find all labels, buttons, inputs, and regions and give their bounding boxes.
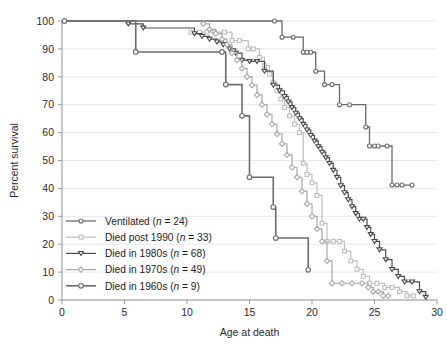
data-point-triangle-down	[192, 32, 197, 36]
y-tick-label: 80	[42, 71, 54, 83]
data-point-triangle-down	[350, 205, 355, 209]
data-point-triangle-down	[327, 161, 332, 165]
data-point-triangle-down	[207, 37, 212, 41]
y-axis-title-text: Percent survival	[8, 123, 20, 198]
legend-label-text: Died in 1960s (n = 9)	[105, 281, 200, 292]
data-point-circle	[271, 205, 276, 210]
data-point-square	[268, 72, 272, 76]
data-point-circle	[348, 103, 352, 107]
data-point-diamond	[289, 165, 294, 170]
data-point-triangle-down	[247, 60, 252, 64]
data-point-diamond	[314, 226, 319, 231]
data-point-triangle-down	[331, 168, 336, 172]
chart-svg: 0102030405060708090100 051015202530 Perc…	[0, 0, 447, 353]
data-point-circle	[385, 144, 389, 148]
data-point-diamond	[254, 92, 259, 97]
data-point-square	[305, 173, 309, 177]
y-tick-label: 0	[48, 294, 54, 306]
data-point-triangle-down	[215, 40, 220, 44]
data-point-triangle-down	[323, 156, 328, 160]
legend-label-text: Died in 1970s (n = 49)	[105, 264, 206, 275]
data-point-circle	[62, 19, 67, 24]
data-point-circle	[400, 183, 404, 187]
data-point-triangle-down	[410, 280, 415, 284]
legend-label-text: Ventilated (n = 24)	[105, 216, 188, 227]
legend-label-text: Died in 1980s (n = 68)	[105, 248, 206, 259]
legend-entry-died-in-1970s[interactable]: Died in 1970s (n = 49)	[66, 264, 206, 275]
data-point-circle	[410, 183, 414, 187]
data-point-circle	[306, 268, 311, 273]
y-axis-title: Percent survival	[8, 123, 20, 198]
data-point-triangle-down	[271, 83, 276, 87]
data-point-triangle-down	[372, 240, 377, 244]
data-point-triangle-down	[353, 212, 358, 216]
data-point-square	[298, 131, 302, 135]
data-point-triangle-down	[383, 258, 388, 262]
data-point-diamond	[234, 57, 239, 62]
legend-entry-ventilated[interactable]: Ventilated (n = 24)	[66, 216, 188, 227]
data-point-triangle-down	[316, 145, 321, 149]
data-point-diamond	[309, 214, 314, 219]
data-point-circle	[247, 175, 252, 180]
data-point-square	[355, 267, 359, 271]
legend-entry-died-in-1960s[interactable]: Died in 1960s (n = 9)	[66, 281, 200, 292]
x-tick-label: 15	[244, 306, 256, 318]
legend-entry-died-post-1990[interactable]: Died post 1990 (n = 33)	[66, 232, 212, 243]
data-point-diamond	[279, 141, 284, 146]
data-point-triangle-down	[293, 111, 298, 115]
data-point-triangle-down	[423, 295, 428, 299]
data-point-diamond	[349, 281, 354, 286]
x-tick-label: 5	[122, 306, 128, 318]
y-tick-label: 40	[42, 182, 54, 194]
data-point-circle	[133, 50, 138, 55]
data-point-triangle-down	[417, 290, 422, 294]
y-tick-label: 90	[42, 43, 54, 55]
data-point-square	[293, 122, 297, 126]
data-point-diamond	[201, 21, 206, 26]
y-tick-label: 60	[42, 126, 54, 138]
data-point-triangle-down	[200, 34, 205, 38]
data-point-circle	[364, 125, 368, 129]
data-point-circle	[79, 219, 83, 223]
data-point-square	[251, 47, 255, 51]
data-point-diamond	[319, 239, 324, 244]
data-point-circle	[330, 83, 334, 87]
data-point-triangle-down	[126, 22, 131, 26]
data-point-square	[349, 259, 353, 263]
data-point-circle	[223, 82, 228, 87]
data-point-diamond	[376, 289, 381, 294]
data-point-diamond	[359, 281, 364, 286]
data-point-circle	[79, 284, 84, 289]
x-tick-label: 20	[306, 306, 318, 318]
data-point-diamond	[304, 201, 309, 206]
data-point-diamond	[284, 152, 289, 157]
data-point-triangle-down	[402, 280, 407, 284]
data-point-triangle-down	[390, 267, 395, 271]
data-point-diamond	[339, 281, 344, 286]
data-point-circle	[395, 183, 399, 187]
data-point-triangle-down	[297, 117, 302, 121]
data-point-circle	[338, 103, 342, 107]
legend: Ventilated (n = 24)Died post 1990 (n = 3…	[66, 216, 212, 292]
data-point-circle	[309, 50, 313, 54]
x-tick-label: 30	[431, 306, 443, 318]
data-point-diamond	[294, 175, 299, 180]
x-axis-title: Age at death	[220, 326, 280, 338]
data-point-diamond	[259, 102, 264, 107]
legend-entry-died-in-1980s[interactable]: Died in 1980s (n = 68)	[66, 248, 206, 259]
x-tick-label: 10	[181, 306, 193, 318]
data-point-triangle-down	[365, 226, 370, 230]
data-point-square	[258, 55, 262, 59]
legend-label-text: Died post 1990 (n = 33)	[105, 232, 212, 243]
data-point-diamond	[269, 122, 274, 127]
data-point-square	[331, 240, 335, 244]
data-point-square	[283, 106, 287, 110]
series-step-line	[203, 24, 388, 296]
data-point-diamond	[244, 74, 249, 79]
data-point-circle	[220, 50, 225, 55]
data-point-triangle-down	[368, 233, 373, 237]
data-point-triangle-down	[262, 69, 267, 73]
data-point-circle	[280, 35, 284, 39]
data-point-square	[383, 286, 387, 290]
data-point-diamond	[324, 258, 329, 263]
